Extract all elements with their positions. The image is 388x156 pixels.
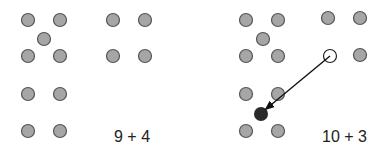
dot	[139, 14, 152, 27]
dot	[54, 50, 67, 63]
dot	[38, 33, 51, 46]
dot	[54, 88, 67, 101]
dot	[107, 50, 120, 63]
moved-dot	[254, 107, 268, 121]
dot	[107, 14, 120, 27]
dots-layer	[22, 12, 367, 138]
dot	[240, 88, 253, 101]
dot	[22, 125, 35, 138]
dot	[240, 125, 253, 138]
dot	[257, 33, 270, 46]
dot	[354, 12, 367, 25]
dot	[22, 14, 35, 27]
dot	[54, 14, 67, 27]
dot	[354, 49, 367, 62]
dot	[272, 14, 285, 27]
dot	[240, 50, 253, 63]
dot	[139, 50, 152, 63]
panel-label-right: 10 + 3	[322, 128, 367, 146]
dot	[272, 125, 285, 138]
arrow-line	[266, 56, 330, 109]
dot	[22, 50, 35, 63]
move-arrow	[254, 50, 337, 122]
panel-label-left: 9 + 4	[114, 128, 150, 146]
dot	[240, 14, 253, 27]
dot	[54, 125, 67, 138]
dot	[272, 50, 285, 63]
dot	[22, 88, 35, 101]
dot	[322, 12, 335, 25]
